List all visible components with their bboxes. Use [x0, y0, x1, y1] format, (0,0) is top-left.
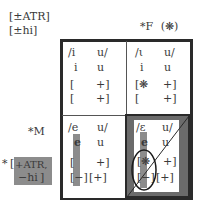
annotation-overlay	[0, 0, 198, 200]
violation-ellipse-icon	[132, 150, 156, 190]
